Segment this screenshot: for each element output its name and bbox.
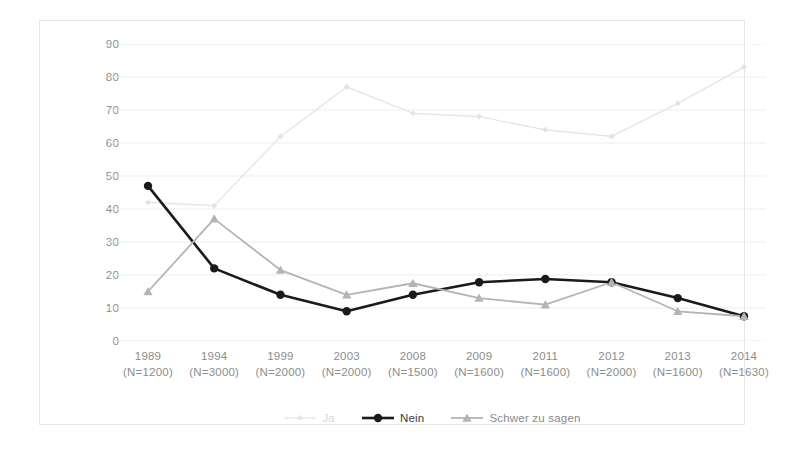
legend-item-ja[interactable]: Ja: [283, 412, 335, 424]
data-point-ja: [675, 100, 681, 106]
x-axis-sample-size: (N=1600): [512, 364, 578, 380]
x-axis-tick-label: 2014(N=1630): [711, 348, 777, 380]
x-axis-tick-label: 1999(N=2000): [247, 348, 313, 380]
x-axis-tick-label: 2009(N=1600): [446, 348, 512, 380]
screenshot-root: 9080706050403020100 1989(N=1200)1994(N=3…: [0, 0, 785, 451]
data-point-nein: [276, 291, 284, 299]
series-line-schwer-zu-sagen: [148, 219, 744, 316]
data-point-ja: [476, 114, 482, 120]
x-axis-tick-label: 1994(N=3000): [181, 348, 247, 380]
x-axis-year: 2003: [314, 348, 380, 364]
legend-marker-ja-icon: [283, 412, 317, 424]
legend-marker-nein-icon: [361, 412, 395, 424]
data-point-schwer-zu-sagen: [210, 214, 219, 222]
data-point-ja: [145, 199, 151, 205]
x-axis-year: 1989: [115, 348, 181, 364]
legend-marker-schwer-icon: [450, 412, 484, 424]
legend-item-schwer[interactable]: Schwer zu sagen: [450, 412, 580, 424]
legend-item-nein[interactable]: Nein: [361, 412, 424, 424]
series-line-nein: [148, 186, 744, 316]
x-axis-tick-label: 2008(N=1500): [380, 348, 446, 380]
data-point-ja: [741, 64, 747, 70]
line-chart-svg: [108, 44, 766, 341]
series-markers: [143, 64, 748, 320]
data-point-ja: [609, 133, 615, 139]
x-axis-year: 2008: [380, 348, 446, 364]
x-axis-sample-size: (N=2000): [579, 364, 645, 380]
x-axis-year: 2011: [512, 348, 578, 364]
data-point-nein: [409, 291, 417, 299]
x-axis-tick-label: 2012(N=2000): [579, 348, 645, 380]
series-lines: [148, 67, 744, 316]
data-point-schwer-zu-sagen: [408, 279, 417, 287]
x-axis: 1989(N=1200)1994(N=3000)1999(N=2000)2003…: [108, 348, 766, 396]
plot-area: [108, 44, 766, 341]
x-axis-sample-size: (N=2000): [314, 364, 380, 380]
x-axis-sample-size: (N=1630): [711, 364, 777, 380]
x-axis-year: 2013: [645, 348, 711, 364]
chart-frame: 9080706050403020100 1989(N=1200)1994(N=3…: [39, 20, 745, 425]
legend-label-ja: Ja: [322, 412, 335, 424]
data-point-nein: [210, 264, 218, 272]
data-point-nein: [342, 307, 350, 315]
x-axis-year: 1994: [181, 348, 247, 364]
x-axis-tick-label: 2013(N=1600): [645, 348, 711, 380]
x-axis-sample-size: (N=1500): [380, 364, 446, 380]
data-point-ja: [542, 127, 548, 133]
legend-label-nein: Nein: [400, 412, 424, 424]
x-axis-tick-label: 1989(N=1200): [115, 348, 181, 380]
x-axis-sample-size: (N=1600): [645, 364, 711, 380]
x-axis-year: 2014: [711, 348, 777, 364]
x-axis-tick-label: 2003(N=2000): [314, 348, 380, 380]
data-point-nein: [541, 275, 549, 283]
chart-legend: JaNeinSchwer zu sagen: [79, 406, 785, 430]
data-point-nein: [475, 278, 483, 286]
data-point-nein: [674, 294, 682, 302]
data-point-ja: [410, 110, 416, 116]
data-point-nein: [144, 182, 152, 190]
series-line-ja: [148, 67, 744, 206]
x-axis-tick-label: 2011(N=1600): [512, 348, 578, 380]
x-axis-sample-size: (N=1200): [115, 364, 181, 380]
x-axis-sample-size: (N=3000): [181, 364, 247, 380]
x-axis-sample-size: (N=1600): [446, 364, 512, 380]
x-axis-year: 2012: [579, 348, 645, 364]
x-axis-sample-size: (N=2000): [247, 364, 313, 380]
x-axis-year: 1999: [247, 348, 313, 364]
legend-label-schwer: Schwer zu sagen: [489, 412, 580, 424]
x-axis-year: 2009: [446, 348, 512, 364]
